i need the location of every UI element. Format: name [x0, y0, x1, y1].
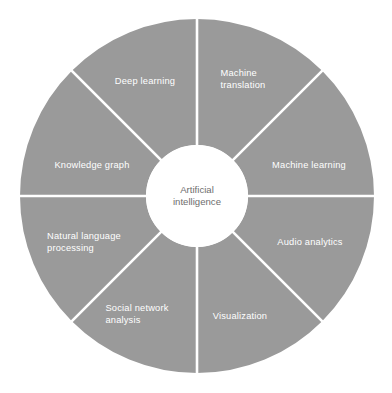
- sector-label-machine-learning[interactable]: Machine learning: [272, 160, 346, 172]
- sector-label-social-network-analysis[interactable]: Social network analysis: [105, 303, 168, 326]
- sector-label-visualization[interactable]: Visualization: [213, 311, 267, 323]
- sector-label-deep-learning[interactable]: Deep learning: [115, 76, 175, 88]
- sector-label-natural-language-processing[interactable]: Natural language processing: [47, 231, 121, 254]
- sector-label-knowledge-graph[interactable]: Knowledge graph: [54, 160, 129, 172]
- sector-label-audio-analytics[interactable]: Audio analytics: [277, 237, 342, 249]
- ai-wheel-diagram: Machine translation Machine learning Aud…: [0, 0, 392, 393]
- hub-label-artificial-intelligence[interactable]: Artificial intelligence: [173, 184, 221, 209]
- sector-label-machine-translation[interactable]: Machine translation: [221, 68, 266, 91]
